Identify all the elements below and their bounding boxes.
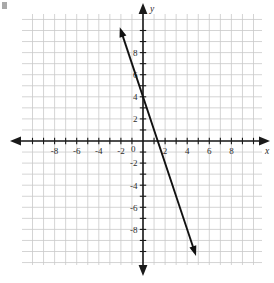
x-axis-label: x <box>264 146 270 156</box>
y-tick-label: -4 <box>130 181 138 191</box>
line-lower-arrowhead <box>189 245 196 256</box>
grid-lines <box>22 14 262 265</box>
y-axis-label: y <box>149 4 155 14</box>
x-tick-label: -2 <box>117 146 125 156</box>
x-tick-label: 4 <box>185 146 190 156</box>
x-tick-label: 6 <box>207 146 212 156</box>
axis-names: x y 0 <box>131 4 270 156</box>
y-tick-label: 4 <box>133 92 138 102</box>
x-tick-label: -8 <box>51 146 59 156</box>
corner-artifact-mark <box>2 2 7 9</box>
x-tick-label: 8 <box>229 146 234 156</box>
y-axis-bottom-arrowhead <box>139 265 148 276</box>
graph-figure: -8-6-4-224688642-2-4-6-8 x y 0 <box>0 0 274 283</box>
y-tick-label: -8 <box>130 225 138 235</box>
coordinate-plane-svg: -8-6-4-224688642-2-4-6-8 x y 0 <box>0 0 274 283</box>
y-tick-label: -6 <box>130 203 138 213</box>
y-axis-top-arrowhead <box>139 3 148 14</box>
x-axis-left-arrowhead <box>10 137 21 146</box>
y-tick-label: -2 <box>130 158 138 168</box>
y-tick-label: 2 <box>133 114 138 124</box>
x-tick-label: 2 <box>163 146 168 156</box>
y-tick-label: 8 <box>133 48 138 58</box>
x-tick-label: -4 <box>95 146 103 156</box>
x-axis-right-arrowhead <box>259 137 270 146</box>
line-upper-arrowhead <box>120 27 127 38</box>
x-tick-label: -6 <box>73 146 81 156</box>
origin-label: 0 <box>131 144 136 154</box>
